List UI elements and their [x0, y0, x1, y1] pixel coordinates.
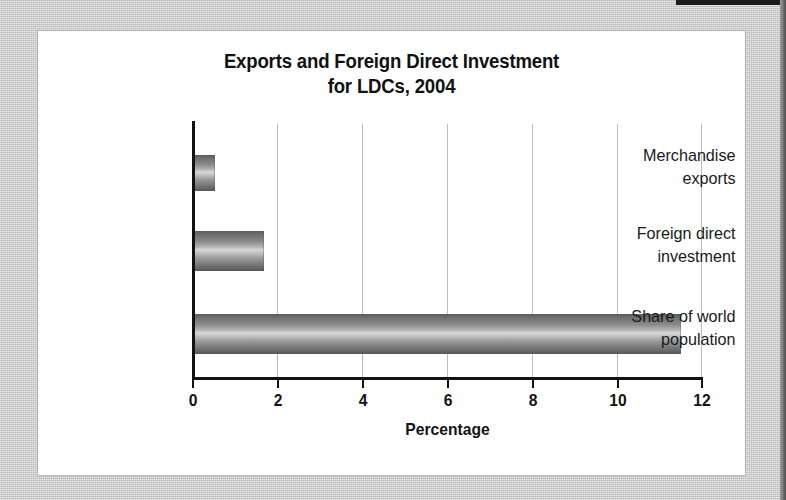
xtick-mark-12: [701, 380, 703, 388]
page-background: Exports and Foreign Direct Investment fo…: [0, 0, 786, 500]
y-axis-line: [192, 121, 195, 380]
scan-edge-top-strip: [676, 0, 786, 5]
category-label-merchandise-exports: Merchandise exports: [599, 144, 745, 190]
xtick-mark-6: [447, 380, 449, 388]
xtick-mark-4: [362, 380, 364, 388]
xtick-label-12: 12: [674, 391, 729, 411]
category-label-line-1: Foreign direct: [599, 222, 736, 245]
chart-title: Exports and Foreign Direct Investment fo…: [38, 49, 745, 99]
xtick-mark-2: [277, 380, 279, 388]
xtick-mark-10: [617, 380, 619, 388]
xtick-label-10: 10: [590, 391, 645, 411]
chart-card: Exports and Foreign Direct Investment fo…: [38, 31, 745, 475]
xtick-mark-8: [532, 380, 534, 388]
xtick-label-8: 8: [505, 391, 560, 411]
xtick-label-0: 0: [165, 391, 220, 411]
bar-foreign-direct-investment[interactable]: [192, 231, 264, 271]
xtick-mark-0: [192, 380, 194, 388]
chart-title-line-1: Exports and Foreign Direct Investment: [63, 49, 721, 74]
category-label-foreign-direct-investment: Foreign direct investment: [599, 222, 745, 268]
xtick-label-6: 6: [420, 391, 475, 411]
xtick-label-4: 4: [335, 391, 390, 411]
category-label-line-1: Share of world: [599, 305, 736, 328]
chart-title-line-2: for LDCs, 2004: [63, 74, 721, 99]
scan-edge-right-strip: [780, 0, 786, 500]
xtick-label-2: 2: [250, 391, 305, 411]
category-label-line-2: exports: [599, 167, 736, 190]
x-axis-title: Percentage: [212, 420, 682, 440]
category-label-share-of-world-population: Share of world population: [599, 305, 745, 351]
category-label-line-2: investment: [599, 245, 736, 268]
category-label-line-1: Merchandise: [599, 144, 736, 167]
bar-merchandise-exports[interactable]: [192, 155, 215, 191]
category-label-line-2: population: [599, 328, 736, 351]
